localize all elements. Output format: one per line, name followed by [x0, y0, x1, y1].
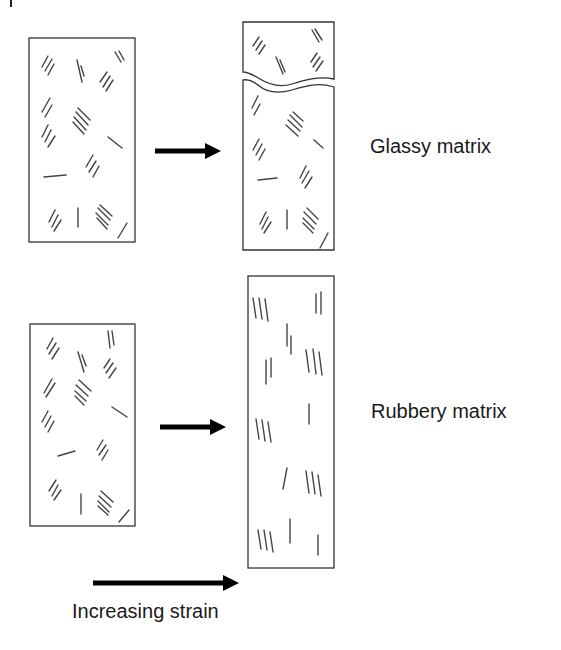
- rubbery-after-specimen: [248, 276, 334, 568]
- rubbery-matrix-label: Rubbery matrix: [371, 400, 507, 423]
- glassy-matrix-label: Glassy matrix: [370, 135, 491, 158]
- glassy-before-specimen: [29, 38, 135, 242]
- rubbery-strain-arrow: [160, 419, 226, 435]
- increasing-strain-label: Increasing strain: [72, 600, 219, 623]
- increasing-strain-arrow: [93, 575, 239, 591]
- glassy-strain-arrow: [155, 143, 221, 159]
- glassy-after-specimen: [243, 22, 334, 250]
- diagram-canvas: [0, 0, 561, 650]
- rubbery-before-specimen: [30, 324, 135, 526]
